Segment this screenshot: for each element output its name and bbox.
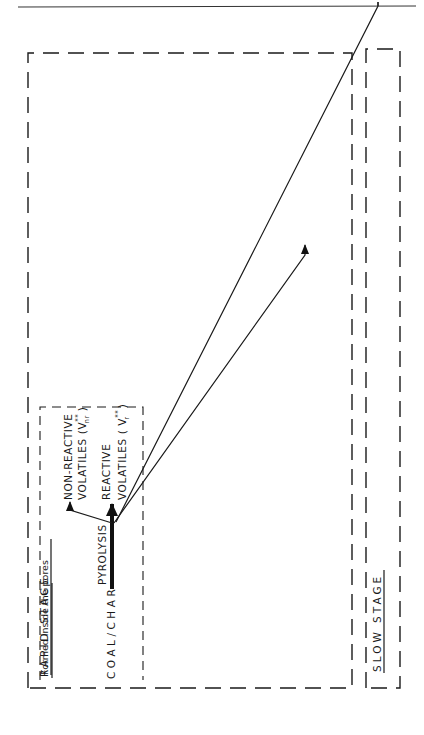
- reactive-volatiles-label-2: VOLATILES ( V**r ): [114, 404, 131, 500]
- non-reactive-volatiles-label-2: VOLATILES (V**nr ): [74, 406, 91, 500]
- rotated-diagram-content: RAPID STAGE SLOW STAGE COAL/CHAR PYROLYS…: [28, 2, 400, 688]
- slow-stage-label: SLOW STAGE: [371, 574, 383, 672]
- pores-box-title: Formed inside the pores: [39, 560, 50, 675]
- coal-hydrogasification-diagram: RAPID STAGE SLOW STAGE COAL/CHAR PYROLYS…: [0, 0, 424, 735]
- to-residual-char-line: [116, 2, 378, 522]
- rapid-stage-box: [28, 53, 352, 688]
- to-non-reactive-arrow: [70, 502, 112, 523]
- page-top-rule: [18, 6, 416, 7]
- pyrolysis-label: PYROLYSIS: [96, 524, 108, 585]
- reactive-volatiles-label: REACTIVE: [100, 444, 112, 500]
- coal-char-label: COAL/CHAR: [105, 586, 117, 679]
- non-reactive-volatiles-label: NON-REACTIVE: [62, 413, 74, 500]
